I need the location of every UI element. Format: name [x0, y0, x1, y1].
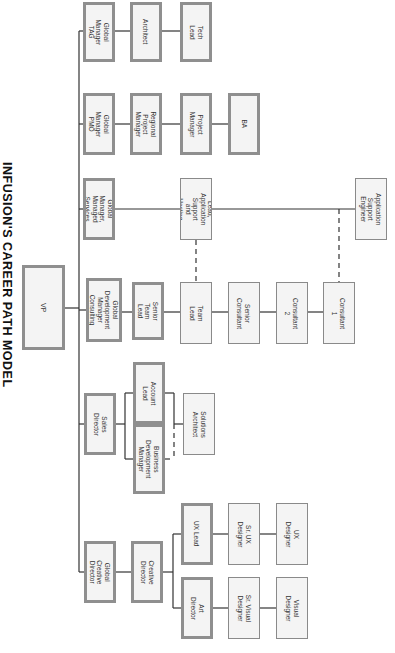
- node-label: BA: [240, 120, 248, 129]
- node-visual-designer: Visual Designer: [276, 577, 308, 639]
- node-creative-director: Creative Director: [131, 541, 163, 603]
- node-project-manager: Project Manager: [180, 93, 212, 155]
- node-app-support-eng: Application Support Engineer: [355, 178, 387, 240]
- node-label: Consultant 2: [285, 297, 300, 328]
- node-label: Team Lead: [189, 298, 204, 328]
- node-global-creative-director: Global Creative Director: [84, 541, 116, 603]
- node-tech-lead: Tech Lead: [180, 2, 212, 62]
- node-label: Sr. Visual Designer: [237, 593, 252, 623]
- node-label: Creative Director: [140, 559, 155, 585]
- node-label: VP: [40, 303, 48, 312]
- node-regional-pm: Regional Project Manager: [130, 93, 162, 155]
- node-label: UX Lead: [193, 521, 201, 546]
- career-path-diagram: INFUSION'S CAREER PATH MODEL VPGlobal Ma…: [0, 0, 395, 653]
- node-gdm-consulting: Global Development Manager Consulting: [86, 278, 122, 342]
- node-gm-managed: Global Manager, Managed Services: [83, 178, 115, 240]
- node-label: Team Lead, Application Support and Hosti…: [180, 193, 212, 225]
- node-tl-app-support: Team Lead, Application Support and Hosti…: [180, 178, 212, 240]
- node-vp: VP: [22, 265, 65, 350]
- node-ux-designer: UX Designer: [276, 503, 308, 565]
- node-label: Senior Team Lead: [137, 298, 160, 324]
- diagram-title: INFUSION'S CAREER PATH MODEL: [0, 162, 14, 388]
- node-senior-consultant: Senior Consultant: [228, 282, 260, 344]
- node-label: Global Manager, Managed Services: [84, 195, 114, 222]
- node-label: Application Support Engineer: [360, 193, 383, 225]
- node-art-director: Art Director: [181, 577, 213, 639]
- node-sr-ux-designer: Sr. UX Designer: [228, 503, 260, 565]
- node-label: Global Creative Director: [89, 559, 112, 585]
- node-label: Solutions Architect: [192, 409, 207, 439]
- node-label: Business Development Manager: [138, 440, 161, 478]
- node-label: Project Manager: [189, 111, 204, 137]
- node-architect: Architect: [130, 2, 162, 62]
- node-label: Sr. UX Designer: [237, 519, 252, 549]
- node-label: Account Lead: [142, 380, 157, 406]
- node-label: Tech Lead: [189, 19, 204, 45]
- node-label: Visual Designer: [285, 593, 300, 623]
- node-solutions-architect: Solutions Architect: [183, 393, 215, 455]
- node-account-lead: Account Lead: [133, 362, 165, 424]
- node-consultant-1: Consultant 1: [323, 282, 355, 344]
- node-sales-director: Sales Director: [84, 393, 116, 455]
- node-label: Consultant 1: [332, 297, 347, 328]
- node-gm-pmo: Global Manager PMO: [83, 93, 115, 155]
- node-ba: BA: [228, 93, 260, 155]
- node-label: Regional Project Manager: [135, 111, 158, 137]
- node-consultant-2: Consultant 2: [276, 282, 308, 344]
- node-label: Global Manager PMO: [88, 111, 111, 137]
- node-gm-tag: Global Manager TAG: [83, 2, 115, 62]
- node-sr-visual-designer: Sr. Visual Designer: [228, 577, 260, 639]
- node-label: Senior Consultant: [237, 297, 252, 328]
- node-senior-team-lead: Senior Team Lead: [132, 282, 164, 340]
- node-label: Global Manager TAG: [88, 19, 111, 45]
- node-label: Art Director: [190, 595, 205, 621]
- node-team-lead: Team Lead: [180, 282, 212, 344]
- node-bdm: Business Development Manager: [133, 424, 165, 494]
- node-label: Sales Director: [93, 411, 108, 437]
- node-ux-lead: UX Lead: [181, 503, 213, 565]
- node-label: Architect: [142, 19, 150, 44]
- node-label: Global Development Manager Consulting: [89, 291, 119, 329]
- node-label: UX Designer: [285, 519, 300, 549]
